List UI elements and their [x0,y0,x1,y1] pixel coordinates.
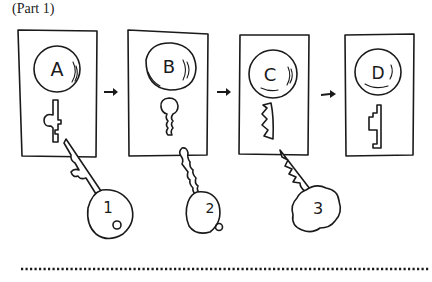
key-1-icon: 1 [64,139,133,239]
keyhole-c-icon [262,103,273,139]
key-label-3: 3 [313,199,323,218]
lock-d: D [355,49,401,95]
panel-a: A [18,30,97,157]
lock-key-diagram: A B C [0,0,432,282]
keyhole-b-icon [161,98,178,135]
lock-a: A [34,46,80,92]
lock-label-d: D [371,63,384,83]
lock-label-a: A [51,58,64,80]
lock-label-b: B [163,56,175,77]
key-label-2: 2 [206,200,215,216]
lock-label-c: C [264,64,277,85]
panel-b: B [128,30,208,156]
key-3-icon: 3 [280,150,340,232]
right-arrow-icon [217,88,231,96]
panel-c: C [239,35,309,155]
panel-d: D [345,34,414,156]
key-label-1: 1 [103,199,113,217]
keyhole-a-icon [44,100,61,142]
lock-b: B [146,43,196,90]
right-arrow-icon [104,88,118,96]
lock-c: C [249,50,297,98]
keyhole-d-icon [369,105,381,148]
right-arrow-icon [321,90,336,98]
key-2-icon: 2 [180,148,223,233]
